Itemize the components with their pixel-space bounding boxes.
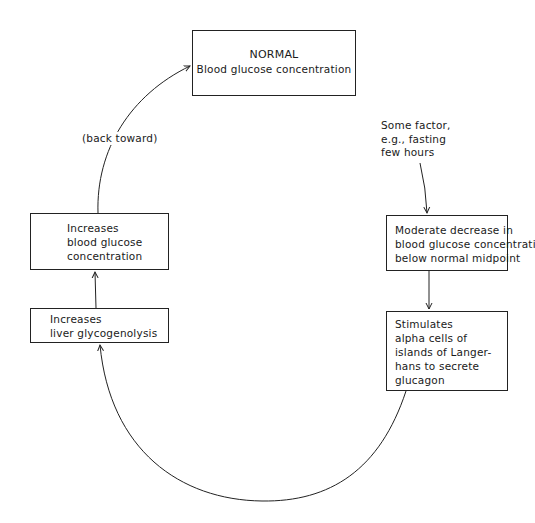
increases-blood-glucose-box: Increases blood glucose concentration <box>30 213 169 270</box>
stimulates-line: alpha cells of <box>395 331 507 345</box>
increases-bg-line: blood glucose <box>67 235 168 249</box>
normal-blood-glucose-box: NORMAL Blood glucose concentration <box>192 30 356 96</box>
decrease-line: Moderate decrease in <box>395 223 507 237</box>
trigger-line: Some factor, <box>381 119 451 133</box>
decrease-line: below normal midpoint <box>395 251 507 265</box>
stimulates-line: glucagon <box>395 373 507 387</box>
increases-bg-line: Increases <box>67 221 168 235</box>
arrow-stimulates-to-glycogenolysis <box>100 345 406 501</box>
glycogenolysis-line: Increases <box>50 312 168 326</box>
trigger-line: e.g., fasting <box>381 133 451 147</box>
normal-subtitle: Blood glucose concentration <box>193 62 355 76</box>
arrow-glycogenolysis-to-increases <box>95 272 96 308</box>
normal-title: NORMAL <box>193 48 355 62</box>
trigger-line: few hours <box>381 146 451 160</box>
glycogenolysis-line: liver glycogenolysis <box>50 326 168 340</box>
liver-glycogenolysis-box: Increases liver glycogenolysis <box>30 308 169 343</box>
decrease-line: blood glucose concentration <box>395 237 507 251</box>
moderate-decrease-box: Moderate decrease in blood glucose conce… <box>386 215 508 271</box>
arrow-trigger-to-decrease <box>420 163 427 213</box>
stimulates-line: islands of Langer- <box>395 345 507 359</box>
increases-bg-line: concentration <box>67 249 168 263</box>
stimulates-line: Stimulates <box>395 317 507 331</box>
stimulates-alpha-cells-box: Stimulates alpha cells of islands of Lan… <box>386 311 508 391</box>
trigger-factor-label: Some factor, e.g., fasting few hours <box>381 119 451 160</box>
back-toward-label: (back toward) <box>81 132 158 145</box>
stimulates-line: hans to secrete <box>395 359 507 373</box>
